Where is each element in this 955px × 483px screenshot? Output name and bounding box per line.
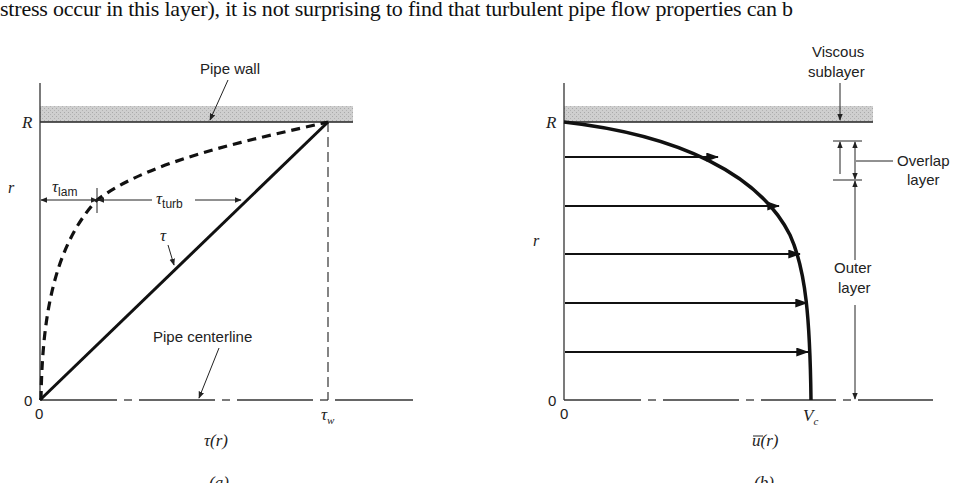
x-tick-tau-w: τw <box>321 405 335 426</box>
outer-label-1: Outer <box>834 259 872 276</box>
viscous-label-2: sublayer <box>808 63 865 80</box>
outer-label-2: layer <box>838 279 871 296</box>
y-tick-origin: 0 <box>24 392 32 409</box>
figure-page: stress occur in this layer), it is not s… <box>0 0 955 483</box>
tau-lam-label: τlam <box>52 177 77 199</box>
caption-b: (b) <box>754 473 774 483</box>
panel-a-shear-stress: Pipe wall R r 0 0 τlam τturb τ Pipe cent… <box>8 60 413 483</box>
x-tick-origin-b: 0 <box>560 405 568 422</box>
viscous-label-1: Viscous <box>812 43 864 60</box>
x-axis-label-b: u(r) <box>752 431 779 450</box>
pipe-wall-band-b <box>564 106 873 122</box>
y-tick-R: R <box>21 113 33 132</box>
x-axis-label: τ(r) <box>204 431 228 450</box>
tau-label: τ <box>160 226 167 245</box>
tau-turb-label: τturb <box>156 189 183 211</box>
turbulent-flow-diagram: Pipe wall R r 0 0 τlam τturb τ Pipe cent… <box>0 0 955 483</box>
overlap-label-1: Overlap <box>897 152 950 169</box>
y-tick-origin-b: 0 <box>548 392 556 409</box>
tau-leader <box>168 245 174 265</box>
y-tick-R-b: R <box>545 113 557 132</box>
pipe-wall-band <box>40 106 353 122</box>
total-shear-line <box>40 122 328 400</box>
x-tick-vc: Vc <box>803 406 818 427</box>
centerline-label: Pipe centerline <box>153 328 252 345</box>
x-tick-origin: 0 <box>35 405 43 422</box>
velocity-profile-curve <box>564 122 811 400</box>
y-axis-label-b: r <box>533 232 540 249</box>
pipe-wall-label: Pipe wall <box>200 60 260 77</box>
centerline-leader <box>199 348 219 398</box>
y-axis-label: r <box>8 179 15 196</box>
overlap-label-2: layer <box>907 171 940 188</box>
velocity-arrows <box>565 157 808 352</box>
panel-b-velocity-profile: Viscous sublayer Overlap layer Outer lay… <box>533 43 950 483</box>
caption-a: (a) <box>209 473 229 483</box>
